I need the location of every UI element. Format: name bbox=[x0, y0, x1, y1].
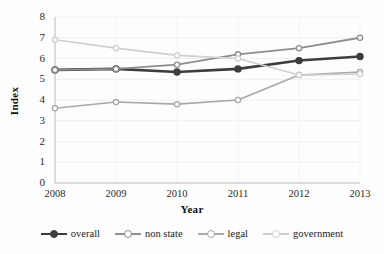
y-tick-label: 5 bbox=[31, 72, 45, 84]
chart-legend: overallnon statelegalgovernment bbox=[0, 228, 384, 239]
legend-swatch-icon bbox=[115, 229, 141, 239]
series-line bbox=[55, 38, 360, 70]
y-tick-label: 7 bbox=[31, 31, 45, 43]
x-tick-label: 2010 bbox=[157, 188, 197, 199]
legend-item-non-state[interactable]: non state bbox=[115, 228, 183, 239]
data-point bbox=[52, 106, 57, 111]
x-axis-title: Year bbox=[0, 203, 384, 215]
series-layer bbox=[52, 35, 363, 111]
data-point bbox=[174, 102, 179, 107]
legend-item-government[interactable]: government bbox=[263, 228, 343, 239]
data-point bbox=[235, 97, 240, 102]
data-point bbox=[296, 73, 301, 78]
data-point bbox=[235, 56, 240, 61]
x-tick-label: 2009 bbox=[96, 188, 136, 199]
y-tick-label: 2 bbox=[31, 135, 45, 147]
data-point bbox=[113, 99, 118, 104]
y-axis-title: Index bbox=[8, 71, 20, 131]
data-point bbox=[113, 66, 118, 71]
legend-swatch-icon bbox=[263, 229, 289, 239]
legend-item-legal[interactable]: legal bbox=[198, 228, 248, 239]
data-point bbox=[174, 53, 179, 58]
series-legal bbox=[52, 69, 362, 111]
legend-label: legal bbox=[228, 228, 248, 239]
series-non-state bbox=[52, 35, 362, 72]
plot-area bbox=[0, 0, 384, 254]
data-point bbox=[357, 35, 362, 40]
legend-swatch-icon bbox=[41, 229, 67, 239]
data-point bbox=[357, 53, 363, 59]
x-tick-label: 2013 bbox=[340, 188, 380, 199]
x-tick-label: 2011 bbox=[218, 188, 258, 199]
x-tick-label: 2008 bbox=[35, 188, 75, 199]
data-point bbox=[357, 71, 362, 76]
legend-label: non state bbox=[145, 228, 183, 239]
gridlines bbox=[55, 17, 360, 183]
x-tick-label: 2012 bbox=[279, 188, 319, 199]
y-tick-label: 4 bbox=[31, 93, 45, 105]
y-tick-label: 6 bbox=[31, 52, 45, 64]
y-tick-label: 0 bbox=[31, 176, 45, 188]
data-point bbox=[113, 46, 118, 51]
legend-item-overall[interactable]: overall bbox=[41, 228, 100, 239]
data-point bbox=[296, 58, 302, 64]
line-chart: 012345678 200820092010201120122013 Index… bbox=[0, 0, 384, 254]
y-tick-label: 3 bbox=[31, 114, 45, 126]
data-point bbox=[296, 46, 301, 51]
data-point bbox=[174, 62, 179, 67]
data-point bbox=[235, 66, 241, 72]
data-point bbox=[52, 67, 57, 72]
legend-swatch-icon bbox=[198, 229, 224, 239]
series-line bbox=[55, 72, 360, 108]
legend-label: overall bbox=[71, 228, 100, 239]
data-point bbox=[174, 69, 180, 75]
y-tick-label: 8 bbox=[31, 10, 45, 22]
legend-label: government bbox=[293, 228, 343, 239]
data-point bbox=[52, 37, 57, 42]
y-tick-label: 1 bbox=[31, 155, 45, 167]
